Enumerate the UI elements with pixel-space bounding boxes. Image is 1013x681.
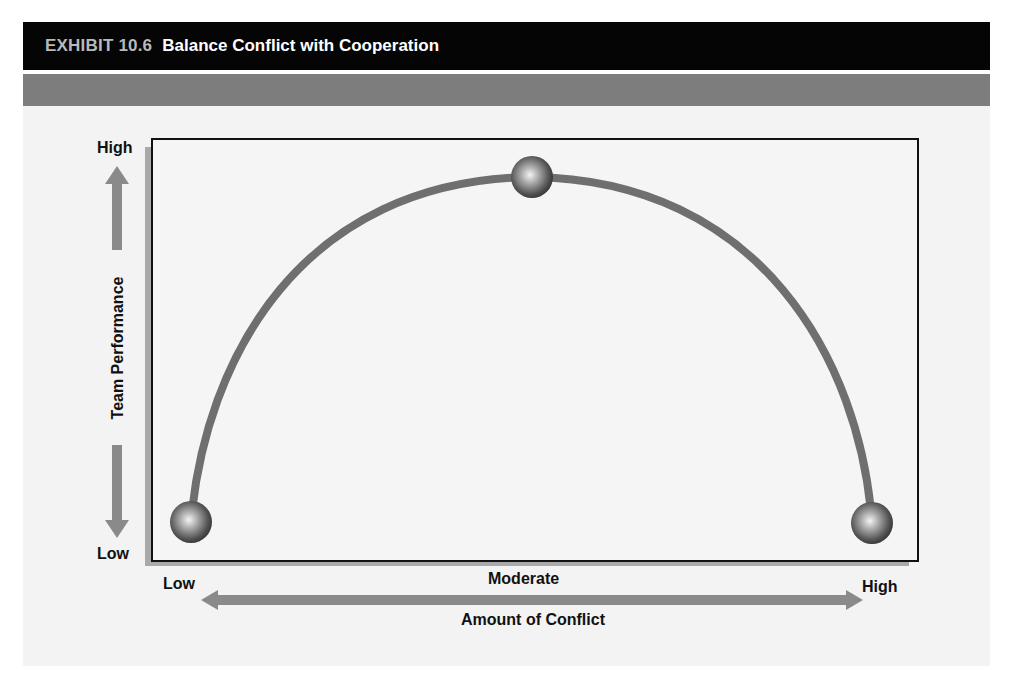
x-axis-moderate-label: Moderate	[488, 570, 559, 588]
point-moderate-conflict-icon	[511, 156, 553, 198]
performance-curve	[191, 177, 872, 523]
x-axis-double-arrow-icon	[201, 590, 863, 610]
y-axis-high-label: High	[97, 139, 133, 157]
x-axis-high-label: High	[862, 578, 898, 596]
y-axis-title: Team Performance	[109, 277, 127, 420]
point-high-conflict-icon	[851, 502, 893, 544]
point-low-conflict-icon	[170, 501, 212, 543]
x-axis-low-label: Low	[163, 575, 195, 593]
y-axis-down-arrow-icon	[105, 445, 129, 538]
y-axis-low-label: Low	[97, 545, 129, 563]
x-axis-title: Amount of Conflict	[461, 611, 605, 629]
y-axis-up-arrow-icon	[105, 166, 129, 250]
